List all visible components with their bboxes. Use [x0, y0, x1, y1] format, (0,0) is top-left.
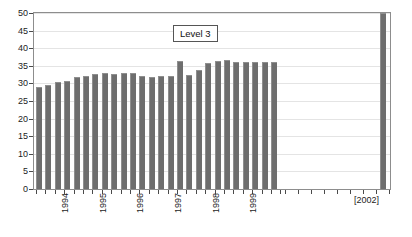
y-axis-tick-mark: [29, 154, 33, 155]
bar: [83, 76, 89, 189]
bar: [205, 63, 211, 189]
x-axis-tick: [83, 190, 84, 194]
y-axis-tick-label: 0: [2, 185, 28, 194]
y-axis-tick-mark: [29, 119, 33, 120]
x-axis-tick: [363, 190, 364, 194]
x-axis-tick: [205, 190, 206, 194]
y-axis-tick-label: 20: [2, 115, 28, 124]
x-axis-tick: [196, 190, 197, 194]
x-axis-tick: [233, 190, 234, 194]
y-axis-tick-mark: [29, 83, 33, 84]
y-axis-tick-mark: [29, 13, 33, 14]
bar: [111, 74, 117, 189]
y-axis-tick-label: 10: [2, 150, 28, 159]
y-axis-tick-label: 25: [2, 97, 28, 106]
bar: [45, 85, 51, 189]
x-axis-tick: [45, 190, 46, 194]
x-axis-tick: [285, 190, 286, 194]
x-axis-tick: [158, 190, 159, 194]
x-axis-tick: [311, 190, 312, 194]
x-axis-tick: [121, 190, 122, 194]
bar: [177, 61, 183, 189]
bar: [139, 76, 145, 189]
y-axis-tick-label: 35: [2, 62, 28, 71]
legend-label-text: Level 3: [180, 28, 211, 39]
chart-root: 05101520253035404550 1994199519961997199…: [0, 0, 412, 237]
x-axis-tick: [262, 190, 263, 194]
bar: [158, 76, 164, 189]
x-axis-tick: [243, 190, 244, 194]
x-axis-tick: [36, 190, 37, 194]
x-axis-tick: [280, 190, 281, 194]
y-axis-tick-label: 40: [2, 44, 28, 53]
y-axis-tick-mark: [29, 171, 33, 172]
bar: [130, 73, 136, 190]
x-axis-tick: [376, 190, 377, 194]
y-axis-tick-mark: [29, 31, 33, 32]
x-axis-tick: [271, 190, 272, 194]
x-axis-year-label: 1999: [249, 193, 258, 213]
bar: [102, 73, 108, 189]
bar: [243, 62, 249, 189]
y-axis-tick-label: 45: [2, 27, 28, 36]
x-axis-year-label: 1998: [212, 193, 221, 213]
legend-label-box: Level 3: [173, 25, 218, 42]
y-axis-tick-mark: [29, 48, 33, 49]
x-axis-year-label: 1994: [61, 193, 70, 213]
bar: [380, 13, 386, 189]
x-axis-tick: [298, 190, 299, 194]
x-axis-tick: [92, 190, 93, 194]
bar: [55, 82, 61, 189]
bar: [36, 87, 42, 189]
x-axis-tick: [168, 190, 169, 194]
y-axis-tick-label: 30: [2, 79, 28, 88]
bar: [64, 81, 70, 189]
bar: [224, 60, 230, 189]
x-axis-tick: [324, 190, 325, 194]
bar: [74, 77, 80, 189]
x-axis-tick: [337, 190, 338, 194]
x-axis-tick: [149, 190, 150, 194]
x-axis-tick: [186, 190, 187, 194]
bar: [121, 73, 127, 190]
x-axis-tick: [350, 190, 351, 194]
bar: [149, 77, 155, 189]
bar: [262, 62, 268, 189]
y-axis-tick-label: 50: [2, 9, 28, 18]
bar: [186, 75, 192, 189]
bar: [233, 62, 239, 189]
x-axis-year-label: 1995: [99, 193, 108, 213]
x-axis-tick: [389, 190, 390, 194]
y-axis-tick-label: 15: [2, 132, 28, 141]
x-axis-tick: [130, 190, 131, 194]
bar: [271, 62, 277, 189]
x-axis-tick: [55, 190, 56, 194]
y-axis-tick-mark: [29, 66, 33, 67]
x-axis-year-label: 1996: [136, 193, 145, 213]
x-axis-year-label: 1997: [174, 193, 183, 213]
x-axis-end-label: [2002]: [354, 196, 379, 205]
y-axis-tick-mark: [29, 101, 33, 102]
y-axis-tick-label: 5: [2, 167, 28, 176]
x-axis-tick: [111, 190, 112, 194]
bar: [252, 62, 258, 189]
bar: [215, 61, 221, 189]
y-axis-tick-mark: [29, 136, 33, 137]
x-axis-tick: [74, 190, 75, 194]
bar: [168, 76, 174, 189]
bar: [196, 70, 202, 189]
bar: [92, 74, 98, 189]
x-axis-tick: [224, 190, 225, 194]
